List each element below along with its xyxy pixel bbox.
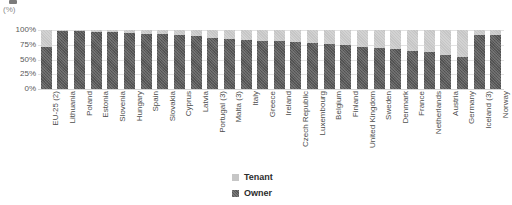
bar-segment-owner: [457, 57, 468, 89]
bar-segment-owner: [274, 41, 285, 89]
bar-segment-owner: [107, 32, 118, 89]
bar-segment-owner: [340, 45, 351, 89]
bar-segment-tenant: [224, 30, 235, 39]
gridline: [38, 89, 504, 90]
legend-swatch-tenant-icon: [232, 174, 239, 181]
bar-segment-tenant: [374, 30, 385, 48]
bar-column[interactable]: [490, 30, 501, 89]
bar-column[interactable]: [274, 30, 285, 89]
legend-item-tenant[interactable]: Tenant: [232, 170, 352, 184]
bar-segment-owner: [74, 31, 85, 89]
bar-segment-owner: [124, 33, 135, 89]
x-axis-category-label: Portugal (3): [217, 91, 229, 163]
x-axis-category-label: Belgium: [333, 91, 345, 163]
bar-column[interactable]: [157, 30, 168, 89]
bar-column[interactable]: [124, 30, 135, 89]
bar-column[interactable]: [357, 30, 368, 89]
x-axis-category-label: Hungary: [134, 91, 146, 163]
bar-segment-owner: [157, 34, 168, 89]
bar-column[interactable]: [390, 30, 401, 89]
bar-segment-owner: [91, 32, 102, 89]
bar-column[interactable]: [107, 30, 118, 89]
bar-column[interactable]: [74, 30, 85, 89]
bar-column[interactable]: [224, 30, 235, 89]
y-axis-tick-label: 25%: [2, 70, 36, 78]
bar-segment-owner: [290, 42, 301, 89]
bar-segment-owner: [174, 35, 185, 89]
bar-column[interactable]: [57, 30, 68, 89]
legend-item-owner[interactable]: Owner: [232, 186, 352, 200]
x-axis-category-label: Greece: [267, 91, 279, 163]
x-axis-category-label: Ireland: [283, 91, 295, 163]
bar-column[interactable]: [340, 30, 351, 89]
y-axis-tick-label: 50%: [2, 56, 36, 64]
bar-segment-tenant: [290, 30, 301, 42]
bar-segment-tenant: [357, 30, 368, 47]
bar-column[interactable]: [91, 30, 102, 89]
x-axis-category-label: Poland: [84, 91, 96, 163]
x-axis-category-label: Czech Republic: [300, 91, 312, 163]
bar-column[interactable]: [407, 30, 418, 89]
plot-area: [38, 30, 504, 89]
x-axis-category-label: Sweden: [383, 91, 395, 163]
bar-column[interactable]: [374, 30, 385, 89]
bar-segment-tenant: [74, 30, 85, 31]
bar-segment-owner: [324, 44, 335, 89]
bar-segment-owner: [490, 35, 501, 89]
bar-column[interactable]: [257, 30, 268, 89]
bar-column[interactable]: [440, 30, 451, 89]
y-axis-tick-label: 0%: [2, 85, 36, 93]
bar-segment-owner: [241, 40, 252, 89]
bar-column[interactable]: [290, 30, 301, 89]
bar-column[interactable]: [141, 30, 152, 89]
bar-segment-tenant: [91, 30, 102, 32]
bar-column[interactable]: [457, 30, 468, 89]
bar-segment-owner: [41, 47, 52, 89]
bar-segment-tenant: [257, 30, 268, 41]
x-axis-category-label: Lithuania: [67, 91, 79, 163]
x-axis-category-label: Cyprus: [183, 91, 195, 163]
x-axis-category-label: Germany: [466, 91, 478, 163]
bar-column[interactable]: [174, 30, 185, 89]
bar-segment-tenant: [41, 30, 52, 47]
bar-segment-owner: [141, 34, 152, 89]
bar-segment-owner: [407, 51, 418, 89]
x-axis-category-label: Luxembourg: [317, 91, 329, 163]
bar-segment-tenant: [324, 30, 335, 44]
bar-segment-tenant: [141, 30, 152, 34]
bar-column[interactable]: [191, 30, 202, 89]
x-axis-category-label: Iceland (3): [483, 91, 495, 163]
x-axis-category-label: Norway: [500, 91, 512, 163]
bar-column[interactable]: [307, 30, 318, 89]
bar-segment-tenant: [340, 30, 351, 45]
bar-column[interactable]: [474, 30, 485, 89]
y-axis-unit-label: (%): [3, 5, 15, 15]
chart-legend: Tenant Owner: [232, 170, 352, 202]
bar-column[interactable]: [424, 30, 435, 89]
bar-column[interactable]: [324, 30, 335, 89]
x-axis-category-label: Italy: [250, 91, 262, 163]
bar-column[interactable]: [207, 30, 218, 89]
bar-column[interactable]: [41, 30, 52, 89]
bar-segment-owner: [57, 31, 68, 89]
bar-segment-tenant: [107, 30, 118, 32]
bar-segment-tenant: [157, 30, 168, 34]
bar-segment-owner: [374, 48, 385, 89]
x-axis-category-label: Malta (3): [233, 91, 245, 163]
x-axis-category-label: France: [416, 91, 428, 163]
legend-swatch-owner-icon: [232, 190, 239, 197]
x-axis-category-label: Finland: [350, 91, 362, 163]
bar-segment-owner: [257, 41, 268, 89]
bar-segment-owner: [191, 36, 202, 89]
x-axis-category-label: EU-25 (2): [50, 91, 62, 163]
bar-segment-tenant: [124, 30, 135, 33]
bar-segment-tenant: [207, 30, 218, 38]
clipped-legend-marker: [9, 0, 17, 4]
x-axis-category-label: Denmark: [400, 91, 412, 163]
x-axis-category-label: Latvia: [200, 91, 212, 163]
x-axis-category-label: United Kingdom: [367, 91, 379, 163]
bar-segment-tenant: [174, 30, 185, 35]
bar-column[interactable]: [241, 30, 252, 89]
x-axis-category-labels: EU-25 (2)LithuaniaPolandEstoniaSloveniaH…: [38, 91, 504, 163]
